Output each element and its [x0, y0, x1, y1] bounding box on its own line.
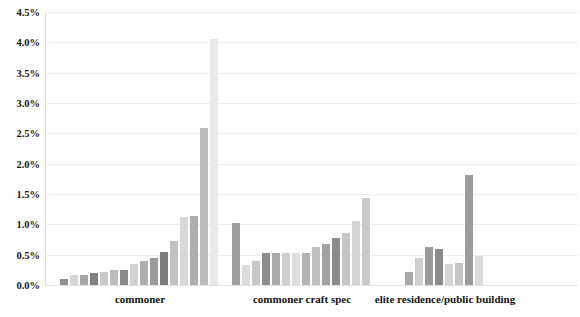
bar[interactable]: [262, 253, 270, 285]
bar[interactable]: [252, 261, 260, 285]
bar-group-0: [60, 12, 220, 285]
bar[interactable]: [232, 223, 240, 285]
bar[interactable]: [445, 264, 453, 285]
y-axis-tick-label: 3.5%: [0, 67, 40, 78]
chart-title: [0, 0, 580, 2]
y-axis-tick-label: 1.5%: [0, 189, 40, 200]
bar[interactable]: [332, 238, 340, 285]
bar[interactable]: [425, 247, 433, 285]
gridline: [45, 285, 578, 286]
bar[interactable]: [455, 263, 463, 285]
bar[interactable]: [312, 247, 320, 285]
bar[interactable]: [210, 39, 218, 285]
bar[interactable]: [90, 273, 98, 285]
bar[interactable]: [80, 275, 88, 285]
bar[interactable]: [465, 175, 473, 285]
y-axis-tick-label: 2.5%: [0, 128, 40, 139]
y-axis-tick-label: 0.0%: [0, 280, 40, 291]
bar[interactable]: [302, 253, 310, 285]
bar[interactable]: [292, 253, 300, 285]
bar[interactable]: [110, 270, 118, 285]
y-axis-tick-label: 1.0%: [0, 219, 40, 230]
bar[interactable]: [170, 241, 178, 285]
bar[interactable]: [362, 198, 370, 285]
bar-group-1: [232, 12, 372, 285]
bar[interactable]: [272, 253, 280, 285]
bar[interactable]: [200, 128, 208, 285]
bar[interactable]: [130, 264, 138, 285]
bar[interactable]: [140, 261, 148, 285]
bar[interactable]: [435, 249, 443, 285]
bar[interactable]: [282, 253, 290, 285]
plot-area: [45, 12, 578, 285]
y-axis-tick-label: 2.0%: [0, 158, 40, 169]
bar[interactable]: [160, 252, 168, 285]
bar[interactable]: [60, 279, 68, 285]
bar[interactable]: [415, 258, 423, 285]
y-axis-tick-label: 4.0%: [0, 37, 40, 48]
bar[interactable]: [100, 272, 108, 285]
bar[interactable]: [180, 217, 188, 285]
bar[interactable]: [120, 270, 128, 285]
bar[interactable]: [352, 221, 360, 285]
bar[interactable]: [322, 244, 330, 285]
bar[interactable]: [242, 265, 250, 285]
bar[interactable]: [150, 258, 158, 285]
x-axis-category-label: elite residence/public building: [315, 293, 575, 306]
y-axis-tick-label: 0.5%: [0, 249, 40, 260]
bar-group-2: [405, 12, 485, 285]
bar[interactable]: [190, 216, 198, 285]
bar[interactable]: [475, 256, 483, 285]
bar[interactable]: [405, 272, 413, 285]
bar[interactable]: [70, 275, 78, 285]
bar[interactable]: [342, 233, 350, 285]
y-axis-tick-label: 4.5%: [0, 7, 40, 18]
x-axis-category-labels: commonercommoner craft specelite residen…: [0, 293, 580, 313]
bar-chart: 0.0%0.5%1.0%1.5%2.0%2.5%3.0%3.5%4.0%4.5%…: [0, 0, 580, 317]
y-axis-tick-label: 3.0%: [0, 98, 40, 109]
